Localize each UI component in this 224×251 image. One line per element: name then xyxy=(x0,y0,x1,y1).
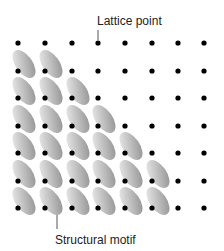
lattice-point xyxy=(175,178,180,183)
lattice-point xyxy=(175,68,180,73)
lattice-point xyxy=(15,205,20,210)
lattice-point xyxy=(69,178,74,183)
structural-motif xyxy=(115,156,147,192)
lattice-point xyxy=(122,40,127,45)
lattice-point-label: Lattice point xyxy=(97,15,162,27)
lattice-point xyxy=(42,123,47,128)
structural-motif xyxy=(88,101,120,137)
lattice-point xyxy=(95,68,100,73)
structural-motif xyxy=(88,128,120,164)
lattice-canvas xyxy=(0,0,224,251)
lattice-point xyxy=(201,68,206,73)
lattice-point xyxy=(122,68,127,73)
lattice-point xyxy=(42,178,47,183)
lattice-point xyxy=(15,68,20,73)
lattice-point xyxy=(42,205,47,210)
structural-motifs-layer xyxy=(8,46,174,219)
crystal-lattice-diagram: Lattice point Structural motif xyxy=(0,0,224,251)
structural-motif xyxy=(115,128,147,164)
structural-motif xyxy=(62,101,94,137)
lattice-point xyxy=(122,123,127,128)
structural-motif xyxy=(35,101,67,137)
structural-motif xyxy=(8,73,40,109)
lattice-point xyxy=(15,40,20,45)
structural-motif xyxy=(142,156,174,192)
structural-motif xyxy=(8,156,40,192)
lattice-point xyxy=(95,178,100,183)
lattice-point xyxy=(175,95,180,100)
lattice-point xyxy=(122,178,127,183)
structural-motif xyxy=(115,183,147,219)
lattice-point xyxy=(175,123,180,128)
structural-motif xyxy=(62,73,94,109)
structural-motif xyxy=(8,128,40,164)
lattice-point xyxy=(69,123,74,128)
lattice-point xyxy=(201,150,206,155)
lattice-point xyxy=(15,95,20,100)
lattice-point xyxy=(201,178,206,183)
lattice-point xyxy=(95,95,100,100)
lattice-point xyxy=(69,40,74,45)
lattice-point xyxy=(15,123,20,128)
structural-motif xyxy=(8,183,40,219)
structural-motif xyxy=(35,73,67,109)
lattice-point xyxy=(69,95,74,100)
lattice-point xyxy=(15,178,20,183)
lattice-point xyxy=(201,205,206,210)
lattice-point xyxy=(149,40,154,45)
lattice-point xyxy=(69,68,74,73)
lattice-point xyxy=(149,205,154,210)
lattice-point xyxy=(42,150,47,155)
structural-motif xyxy=(88,183,120,219)
structural-motif xyxy=(35,128,67,164)
structural-motif xyxy=(35,183,67,219)
structural-motif xyxy=(142,183,174,219)
lattice-point xyxy=(149,150,154,155)
lattice-point xyxy=(69,205,74,210)
structural-motif-label: Structural motif xyxy=(55,234,136,246)
lattice-point xyxy=(149,95,154,100)
lattice-point xyxy=(42,40,47,45)
structural-motif xyxy=(8,46,40,82)
lattice-point xyxy=(201,123,206,128)
lattice-point xyxy=(122,205,127,210)
structural-motif xyxy=(62,183,94,219)
lattice-point xyxy=(201,40,206,45)
lattice-point xyxy=(95,205,100,210)
lattice-point xyxy=(42,95,47,100)
lattice-point xyxy=(149,68,154,73)
structural-motif xyxy=(62,156,94,192)
structural-motif xyxy=(8,101,40,137)
structural-motif xyxy=(88,156,120,192)
lattice-point xyxy=(122,95,127,100)
structural-motif xyxy=(35,156,67,192)
structural-motif xyxy=(35,46,67,82)
lattice-point xyxy=(201,95,206,100)
lattice-point xyxy=(175,150,180,155)
lattice-point xyxy=(95,150,100,155)
lattice-point xyxy=(42,68,47,73)
lattice-point xyxy=(69,150,74,155)
lattice-point xyxy=(15,150,20,155)
lattice-point xyxy=(175,40,180,45)
lattice-point xyxy=(149,178,154,183)
lattice-point xyxy=(122,150,127,155)
lattice-point xyxy=(95,123,100,128)
lattice-point xyxy=(175,205,180,210)
lattice-point xyxy=(95,40,100,45)
structural-motif xyxy=(62,128,94,164)
lattice-point xyxy=(149,123,154,128)
